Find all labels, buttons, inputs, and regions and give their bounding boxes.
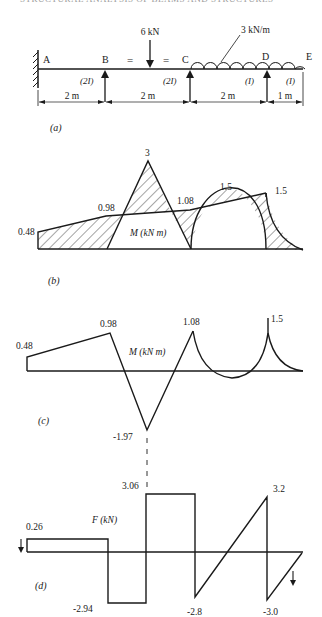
moment-diagram-b: 0.48 0.98 3 1.08 1.5 1.5 M (kN m) (b) — [18, 148, 303, 287]
value-label: 1.5 — [220, 182, 232, 192]
support-label-b: B — [102, 54, 109, 65]
axis-label: F (kN) — [91, 515, 117, 526]
value-label: -3.0 — [263, 607, 278, 617]
distributed-load-icon — [191, 35, 305, 69]
value-label: 1.08 — [177, 196, 194, 206]
span-label-bc: 2 m — [141, 91, 156, 101]
reaction-arrow-right-icon — [290, 571, 296, 586]
value-label: -1.97 — [113, 432, 133, 442]
value-label: 0.48 — [16, 341, 33, 351]
span-label-de: 1 m — [278, 91, 293, 101]
stiffness-label-cd: (I) — [245, 76, 254, 86]
support-label-c: C — [182, 54, 189, 65]
value-label: 3 — [145, 148, 150, 158]
value-label: 0.98 — [98, 203, 115, 213]
shear-diagram-d: 0.26 -2.94 3.06 -2.8 3.2 -3.0 F (kN) (d) — [18, 481, 303, 617]
support-label-d: D — [262, 51, 269, 62]
span-label-cd: 2 m — [221, 91, 236, 101]
caption-a: (a) — [50, 122, 62, 134]
figure: 6 kN 3 kN/m A B C D E = = (2I) (2I) (I) … — [0, 0, 322, 617]
stiffness-label-bc: (2I) — [163, 76, 177, 86]
axis-label: M (kN m) — [128, 347, 165, 358]
stiffness-label-de: (I) — [286, 76, 295, 86]
equal-mark: = — [163, 54, 169, 66]
equal-mark: = — [127, 54, 133, 66]
axis-label: M (kN m) — [129, 228, 166, 239]
support-arrow-b-icon — [101, 70, 109, 102]
distributed-load-label: 3 kN/m — [241, 25, 270, 35]
stiffness-label-ab: (2I) — [80, 76, 94, 86]
support-label-e: E — [306, 51, 312, 62]
reaction-arrow-left-icon — [18, 539, 24, 553]
span-label-ab: 2 m — [65, 91, 80, 101]
support-arrow-d-icon — [263, 70, 271, 102]
value-label: 0.26 — [26, 522, 43, 532]
value-label: 3.2 — [273, 484, 285, 494]
value-label: 0.48 — [18, 227, 35, 237]
fixed-support-icon — [33, 50, 38, 88]
support-arrow-c-icon — [186, 70, 194, 102]
point-load-label: 6 kN — [141, 27, 160, 37]
point-load-arrow-icon — [146, 40, 154, 68]
value-label: 0.98 — [100, 319, 117, 329]
value-label: 1.5 — [275, 186, 287, 196]
caption-c: (c) — [38, 415, 50, 427]
caption-b: (b) — [48, 275, 60, 287]
moment-diagram-c: 0.48 0.98 -1.97 1.08 1.5 M (kN m) (c) — [16, 314, 303, 490]
value-label: -2.94 — [73, 604, 93, 614]
value-label: 3.06 — [122, 481, 139, 491]
support-label-a: A — [43, 54, 51, 65]
caption-d: (d) — [35, 580, 47, 592]
value-label: -2.8 — [187, 607, 202, 617]
value-label: 1.5 — [271, 314, 283, 324]
value-label: 1.08 — [183, 317, 200, 327]
beam-diagram: 6 kN 3 kN/m A B C D E = = (2I) (2I) (I) … — [33, 25, 312, 134]
